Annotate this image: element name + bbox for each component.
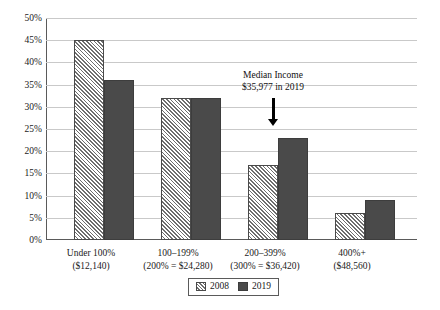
bar-2019-under-100 xyxy=(104,80,134,240)
y-tick-label-35: 35% xyxy=(0,81,42,91)
y-tick-label-45: 45% xyxy=(0,36,42,46)
cat-label-400-plus: 400%+ ($48,560) xyxy=(294,247,410,272)
y-tick-label-20: 20% xyxy=(0,147,42,157)
y-tick-label-5: 5% xyxy=(0,214,42,224)
bar-2019-400-plus xyxy=(365,200,395,240)
median-income-annotation: Median Income $35,977 in 2019 xyxy=(208,70,338,93)
legend-swatch-2019-icon xyxy=(238,282,248,291)
cat-label-400-plus-line2: ($48,560) xyxy=(294,260,410,273)
bar-chart: 50% 45% 40% 35% 30% 25% 20% 15% 10% 5% 0… xyxy=(0,0,440,310)
y-tick-label-10: 10% xyxy=(0,192,42,202)
plot-area: Median Income $35,977 in 2019 xyxy=(46,18,417,240)
arrow-shaft xyxy=(272,98,275,120)
y-tick-label-50: 50% xyxy=(0,14,42,24)
bar-2008-under-100 xyxy=(74,40,104,240)
bar-2008-100-199 xyxy=(161,98,191,240)
bar-2019-100-199 xyxy=(191,98,221,240)
legend-label-2008: 2008 xyxy=(210,281,229,292)
y-tick-label-40: 40% xyxy=(0,58,42,68)
annotation-line-2: $35,977 in 2019 xyxy=(242,82,304,92)
cat-label-100-199-line1: 100–199% xyxy=(157,248,198,258)
chart-legend: 2008 2019 xyxy=(188,278,279,296)
y-tick-label-30: 30% xyxy=(0,103,42,113)
bar-2019-200-399 xyxy=(278,138,308,240)
bar-2008-200-399 xyxy=(248,165,278,241)
y-tick-label-15: 15% xyxy=(0,169,42,179)
cat-label-400-plus-line1: 400%+ xyxy=(338,248,366,258)
legend-item-2019: 2019 xyxy=(238,281,271,292)
legend-swatch-2008-icon xyxy=(196,282,206,291)
y-tick-label-0: 0% xyxy=(0,236,42,246)
arrow-head xyxy=(268,119,278,126)
y-tick-label-25: 25% xyxy=(0,125,42,135)
legend-label-2019: 2019 xyxy=(252,281,271,292)
annotation-line-1: Median Income xyxy=(243,70,303,80)
cat-label-200-399-line1: 200–399% xyxy=(244,248,285,258)
legend-item-2008: 2008 xyxy=(196,281,229,292)
bar-2008-400-plus xyxy=(335,213,365,240)
cat-label-under-100-line1: Under 100% xyxy=(67,248,115,258)
gridline-50 xyxy=(46,18,417,19)
